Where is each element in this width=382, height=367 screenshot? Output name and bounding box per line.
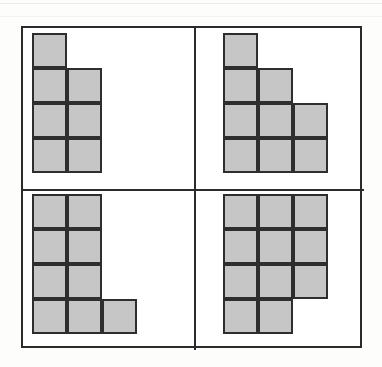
polyomino-cell <box>293 194 328 229</box>
polyomino-cell <box>67 264 102 299</box>
polyomino-cell <box>32 33 67 68</box>
quadrant-bottom-left <box>23 191 194 350</box>
polyomino-cell <box>67 229 102 264</box>
polyomino-cell <box>258 68 293 103</box>
polyomino-cell <box>32 138 67 173</box>
polyomino-cell <box>258 299 293 334</box>
polyomino-cell <box>258 264 293 299</box>
quadrant-top-left <box>23 28 194 189</box>
polyomino-cell <box>258 103 293 138</box>
polyomino-cell <box>258 138 293 173</box>
outer-frame-border <box>21 26 362 348</box>
polyomino-cell <box>67 68 102 103</box>
polyomino-cell <box>258 229 293 264</box>
scan-artifact-line-second <box>0 16 382 17</box>
quadrant-bottom-right <box>196 191 364 350</box>
polyomino-cell <box>223 103 258 138</box>
figure-canvas <box>0 0 382 367</box>
polyomino-cell <box>32 68 67 103</box>
polyomino-cell <box>293 138 328 173</box>
quadrant-top-right <box>196 28 364 189</box>
polyomino-cell <box>32 229 67 264</box>
polyomino-cell <box>67 138 102 173</box>
polyomino-cell <box>67 103 102 138</box>
polyomino-cell <box>32 103 67 138</box>
polyomino-cell <box>67 299 102 334</box>
polyomino-cell <box>223 299 258 334</box>
polyomino-cell <box>223 229 258 264</box>
polyomino-cell <box>32 194 67 229</box>
polyomino-cell <box>32 264 67 299</box>
polyomino-cell <box>223 68 258 103</box>
polyomino-cell <box>223 33 258 68</box>
polyomino-cell <box>102 299 137 334</box>
polyomino-cell <box>223 138 258 173</box>
polyomino-cell <box>67 194 102 229</box>
polyomino-cell <box>223 194 258 229</box>
polyomino-cell <box>293 229 328 264</box>
polyomino-cell <box>258 194 293 229</box>
polyomino-cell <box>293 264 328 299</box>
scan-artifact-line-top <box>0 3 382 4</box>
polyomino-cell <box>293 103 328 138</box>
polyomino-cell <box>32 299 67 334</box>
polyomino-cell <box>223 264 258 299</box>
